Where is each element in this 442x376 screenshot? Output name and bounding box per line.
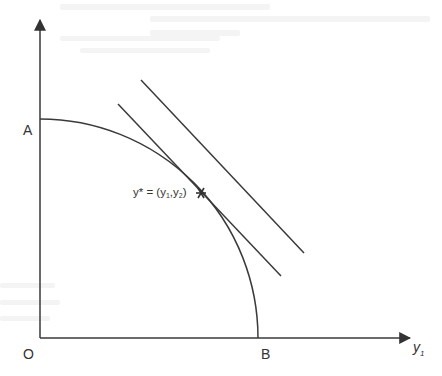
optimal-point-label: y* = (y1,y2) [133, 187, 187, 199]
ppf-diagram [0, 0, 442, 376]
x-axis-label: y1 [413, 340, 424, 358]
production-frontier-curve [40, 119, 258, 338]
origin-label: O [23, 347, 34, 361]
higher-isorevenue-line [141, 80, 304, 253]
y-intercept-label-a: A [23, 123, 32, 137]
x-intercept-label-b: B [261, 347, 270, 361]
